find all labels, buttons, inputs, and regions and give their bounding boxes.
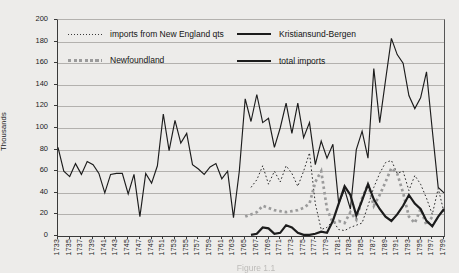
legend-item-total-imports: total imports (237, 56, 325, 66)
x-axis-tick-label: 1765 (239, 239, 249, 263)
legend-item-kristiansund-bergen: Kristiansund-Bergen (237, 29, 356, 39)
line-chart-figure: Thousands 020406080100120140160180200 im… (0, 0, 459, 273)
x-axis-tick-label: 1761 (216, 239, 226, 263)
x-axis-tick-label: 1739 (87, 239, 97, 263)
y-axis-tick-label: 80 (18, 144, 48, 154)
x-axis-tick-label: 1747 (134, 239, 144, 263)
x-axis-tick-label: 1773 (286, 239, 296, 263)
x-axis-tick-label: 1741 (99, 239, 109, 263)
y-axis-tick-label: 60 (18, 165, 48, 175)
x-axis-tick-label: 1789 (380, 239, 390, 263)
y-axis-tick-label: 100 (18, 122, 48, 132)
x-axis-tick-label: 1795 (415, 239, 425, 263)
x-axis-tick-label: 1785 (356, 239, 366, 263)
legend-item-new-england: imports from New England qts (68, 29, 224, 39)
x-axis-tick-label: 1767 (251, 239, 261, 263)
caption-fragment: Figure 1.1 (196, 263, 316, 273)
legend-label: Newfoundland (110, 55, 164, 65)
x-axis-tick-label: 1749 (146, 239, 156, 263)
x-axis-tick-label: 1769 (263, 239, 273, 263)
y-axis-tick-label: 180 (18, 36, 48, 46)
y-axis-tick-label: 200 (18, 14, 48, 24)
y-axis-tick-label: 140 (18, 79, 48, 89)
x-axis-tick-label: 1787 (368, 239, 378, 263)
x-axis-tick-label: 1783 (344, 239, 354, 263)
line-kristiansund-bergen (251, 184, 444, 235)
x-axis-tick-label: 1735 (64, 239, 74, 263)
x-axis-tick-label: 1763 (227, 239, 237, 263)
legend-label: Kristiansund-Bergen (279, 29, 356, 39)
x-axis-tick-label: 1743 (110, 239, 120, 263)
x-axis-tick-label: 1753 (169, 239, 179, 263)
gray-dotted-line-swatch-icon (68, 59, 102, 62)
x-axis-tick-label: 1799 (438, 239, 448, 263)
legend-label: total imports (279, 56, 325, 66)
x-axis-tick-label: 1797 (426, 239, 436, 263)
x-axis-tick-label: 1775 (298, 239, 308, 263)
thin-solid-line-swatch-icon (237, 60, 271, 61)
x-axis-tick-label: 1733 (52, 239, 62, 263)
plot-area: imports from New England qts Newfoundlan… (57, 19, 445, 237)
fine-dotted-line-swatch-icon (68, 33, 102, 35)
x-axis-tick-label: 1751 (157, 239, 167, 263)
x-axis-tick-label: 1779 (321, 239, 331, 263)
x-axis-tick-label: 1755 (181, 239, 191, 263)
x-axis-tick-label: 1777 (309, 239, 319, 263)
y-axis-title: Thousands (0, 102, 8, 162)
chart-canvas (58, 20, 444, 236)
legend-item-newfoundland: Newfoundland (68, 55, 164, 65)
x-axis-tick-label: 1759 (204, 239, 214, 263)
x-axis-tick-label: 1737 (75, 239, 85, 263)
x-axis-tick-label: 1771 (274, 239, 284, 263)
x-axis-tick-label: 1745 (122, 239, 132, 263)
thick-solid-line-swatch-icon (237, 33, 271, 36)
x-axis-tick-label: 1781 (333, 239, 343, 263)
line-newfoundland (245, 168, 432, 225)
x-axis-tick-label: 1793 (403, 239, 413, 263)
x-axis-tick-label: 1757 (192, 239, 202, 263)
legend-label: imports from New England qts (110, 29, 224, 39)
y-axis-tick-label: 160 (18, 57, 48, 67)
x-axis-tick-label: 1791 (391, 239, 401, 263)
y-axis-tick-label: 0 (18, 230, 48, 240)
y-axis-tick-label: 20 (18, 208, 48, 218)
y-axis-tick-label: 120 (18, 100, 48, 110)
y-axis-tick-label: 40 (18, 187, 48, 197)
